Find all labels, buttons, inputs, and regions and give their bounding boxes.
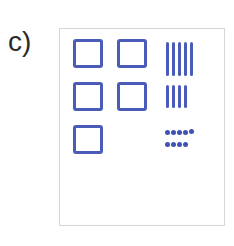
panel-label: c) xyxy=(8,28,31,56)
tally-stroke xyxy=(178,85,181,108)
tally-stroke xyxy=(172,85,175,108)
drawn-square xyxy=(73,125,103,154)
tally-stroke xyxy=(184,85,187,108)
tally-stroke xyxy=(184,42,187,76)
dot xyxy=(183,130,188,135)
tally-stroke xyxy=(166,42,169,76)
drawn-square xyxy=(73,39,103,68)
dot xyxy=(177,130,182,135)
dot xyxy=(165,130,170,135)
tally-stroke xyxy=(190,42,193,76)
paper-sheet xyxy=(59,28,225,226)
drawn-square xyxy=(117,82,147,111)
tally-stroke xyxy=(166,85,169,108)
dot xyxy=(177,142,182,147)
drawn-square xyxy=(73,82,103,111)
dot xyxy=(171,130,176,135)
dot xyxy=(171,142,176,147)
tally-stroke xyxy=(178,42,181,76)
dot xyxy=(189,129,194,134)
tally-stroke xyxy=(172,42,175,76)
drawn-square xyxy=(117,39,147,68)
dot xyxy=(165,142,170,147)
dot xyxy=(183,142,188,147)
